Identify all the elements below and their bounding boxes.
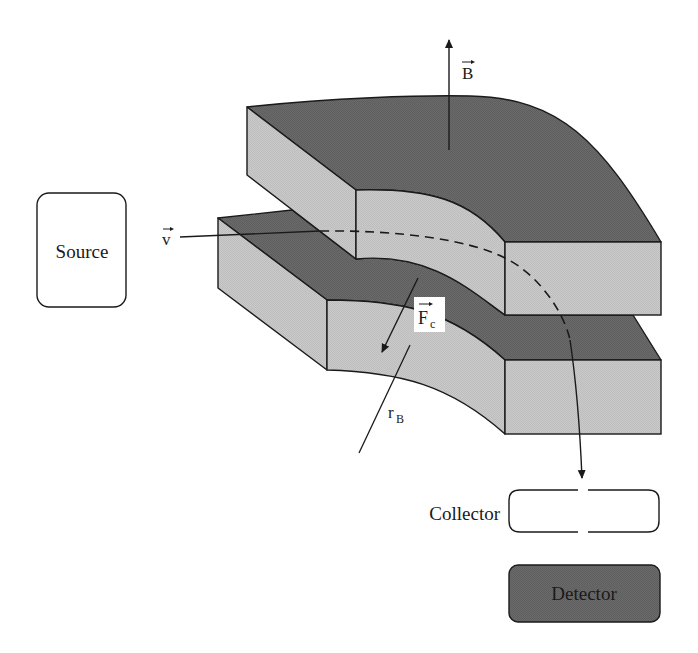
source-box: Source xyxy=(37,193,126,307)
svg-text:v: v xyxy=(162,230,171,249)
svg-text:F: F xyxy=(418,308,428,328)
magnetic-field-label: B xyxy=(462,60,475,83)
svg-text:c: c xyxy=(430,317,435,331)
radius-label: r B xyxy=(388,403,404,426)
collector: Collector xyxy=(429,490,659,532)
source-label: Source xyxy=(56,241,109,262)
centripetal-force-label: F c xyxy=(414,297,445,332)
svg-text:B: B xyxy=(396,412,404,426)
velocity-label: v xyxy=(162,227,174,249)
svg-text:r: r xyxy=(388,403,394,422)
svg-text:B: B xyxy=(462,64,473,83)
collector-label: Collector xyxy=(429,503,500,524)
mass-spectrometer-diagram: Source B v xyxy=(0,0,698,653)
detector-label: Detector xyxy=(551,583,617,604)
detector: Detector xyxy=(509,565,660,622)
